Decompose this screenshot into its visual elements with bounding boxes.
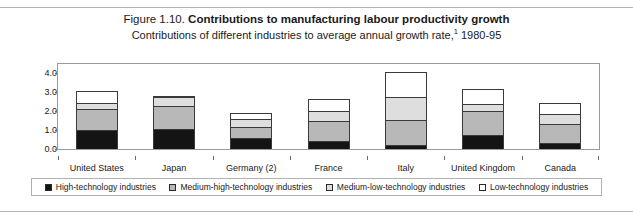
x-tick-mark <box>135 156 136 160</box>
bar-segment <box>462 135 504 149</box>
bar-segment <box>153 106 195 130</box>
bar-segment <box>76 103 118 110</box>
figure-container: Figure 1.10. Contributions to manufactur… <box>0 0 633 219</box>
bar-segment <box>539 143 581 149</box>
bar-japan[interactable] <box>153 96 195 149</box>
bar-segment <box>308 121 350 142</box>
y-tick-label: 0.0 <box>33 145 57 154</box>
bar-segment <box>308 99 350 111</box>
y-tick-label: 1.0 <box>33 126 57 135</box>
bar-segment <box>539 124 581 144</box>
bar-segment <box>385 145 427 149</box>
chart-legend: High-technology industriesMedium-high-te… <box>31 178 602 196</box>
bar-segment <box>308 111 350 120</box>
bar-italy[interactable] <box>385 72 427 149</box>
bar-segment <box>153 129 195 149</box>
legend-item[interactable]: Medium-high-technology industries <box>169 183 312 192</box>
legend-label: Medium-high-technology industries <box>180 183 312 192</box>
bar-segment <box>76 109 118 130</box>
bar-france[interactable] <box>308 99 350 149</box>
bar-segment <box>539 103 581 114</box>
y-axis: 0.01.02.03.04.0 <box>30 58 57 155</box>
bar-segment <box>539 114 581 123</box>
y-tick-label: 3.0 <box>33 88 57 97</box>
legend-item[interactable]: Medium-low-technology industries <box>326 183 466 192</box>
figure-subtitle-text: Contributions of different industries to… <box>132 29 454 41</box>
bar-segment <box>385 120 427 146</box>
x-tick-mark <box>367 156 368 160</box>
page-title: Figure 1.10. Contributions to manufactur… <box>0 12 633 27</box>
bar-segment <box>385 72 427 98</box>
chart-panel: 0.01.02.03.04.0 United StatesJapanGerman… <box>30 58 603 168</box>
x-axis-label-canada: Canada <box>500 163 620 173</box>
figure-title-text: Contributions to manufacturing labour pr… <box>188 13 509 25</box>
bar-canada[interactable] <box>539 103 581 149</box>
legend-swatch-icon <box>326 184 333 191</box>
bar-segment <box>230 119 272 128</box>
bar-united-states[interactable] <box>76 91 118 149</box>
figure-subtitle: Contributions of different industries to… <box>0 28 633 43</box>
x-tick-mark <box>522 156 523 160</box>
x-tick-mark <box>58 156 59 160</box>
legend-swatch-icon <box>45 184 52 191</box>
x-tick-mark <box>598 156 599 160</box>
y-tick-label: 2.0 <box>33 107 57 116</box>
x-tick-mark <box>213 156 214 160</box>
legend-item[interactable]: Low-technology industries <box>479 183 588 192</box>
bar-united-kingdom[interactable] <box>462 89 504 149</box>
x-tick-mark <box>444 156 445 160</box>
x-tick-mark <box>290 156 291 160</box>
bar-segment <box>462 104 504 112</box>
bar-segment <box>230 138 272 149</box>
legend-swatch-icon <box>169 184 176 191</box>
figure-title-block: Figure 1.10. Contributions to manufactur… <box>0 12 633 43</box>
y-tick-label: 4.0 <box>33 69 57 78</box>
bar-segment <box>308 141 350 149</box>
bar-segment <box>230 127 272 137</box>
bar-segment <box>76 130 118 149</box>
figure-subtitle-period: 1980-95 <box>458 29 501 41</box>
legend-label: Medium-low-technology industries <box>337 183 466 192</box>
bar-segment <box>385 97 427 120</box>
bar-segment <box>462 111 504 135</box>
bar-segment <box>76 91 118 102</box>
legend-swatch-icon <box>479 184 486 191</box>
bar-germany-2[interactable] <box>230 113 272 149</box>
legend-item[interactable]: High-technology industries <box>45 183 156 192</box>
bar-segment <box>153 97 195 106</box>
legend-label: Low-technology industries <box>490 183 588 192</box>
page-rule-bottom <box>0 211 633 212</box>
plot-area: United StatesJapanGermany (2)FranceItaly… <box>58 64 599 149</box>
figure-number: Figure 1.10. <box>124 13 185 25</box>
page-rule-top <box>0 7 633 8</box>
bar-segment <box>462 89 504 104</box>
legend-label: High-technology industries <box>56 183 156 192</box>
